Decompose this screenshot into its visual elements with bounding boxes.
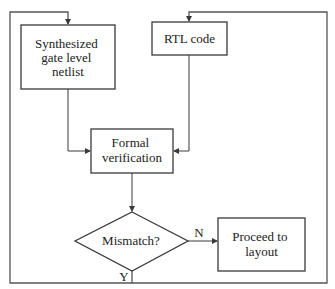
node-mismatch: Mismatch?	[75, 212, 188, 271]
edge-rtl-to-formal	[174, 55, 189, 151]
node-rtl: RTL code	[152, 22, 227, 55]
edge-netlist-to-formal	[68, 89, 90, 151]
no-label: N	[194, 225, 204, 240]
flowchart: Synthesized gate level netlist RTL code …	[0, 0, 335, 289]
node-formal: Formal verification	[91, 129, 173, 173]
node-netlist: Synthesized gate level netlist	[21, 25, 115, 89]
mismatch-label: Mismatch?	[102, 233, 160, 248]
rtl-label: RTL code	[164, 31, 215, 46]
yes-label: Y	[119, 269, 129, 284]
node-proceed: Proceed to layout	[218, 218, 305, 271]
